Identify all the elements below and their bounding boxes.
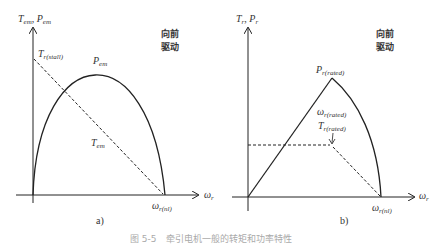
panel-b-no-load-speed-label: ωr(nl) [372, 203, 392, 215]
panel-b-sub-caption: b) [340, 215, 348, 226]
panel-b-pointer-arrow [332, 133, 333, 143]
panel-b-power-rise [248, 78, 332, 197]
panel-b-y-axis-label: Tr, Pr [236, 14, 258, 26]
panel-a-sub-caption: a) [96, 215, 104, 226]
panel-a-y-axis-label: Tem, Pem [18, 14, 51, 26]
panel-b-x-axis-label: ωr [419, 191, 429, 203]
panel-b-rated-power-label: Pr(rated) [316, 65, 344, 77]
panel-a-stall-torque-label: Tr(stall) [38, 49, 63, 61]
panel-a-no-load-speed-label: ωr(nl) [152, 201, 172, 213]
panel-b-region-label: 向前驱动 [376, 28, 394, 54]
figure-caption: 图 5-5 牵引电机一般的转矩和功率特性 [130, 232, 292, 245]
panel-b-rated-speed-label: ωr(rated) [317, 107, 346, 119]
panel-b-power-falloff [332, 78, 381, 197]
panel-a-torque-label: Tem [91, 138, 105, 150]
panel-a-x-axis-label: ωr [204, 190, 214, 202]
panel-a-power-curve [33, 75, 165, 195]
panel-a-torque-line [34, 59, 163, 194]
panel-b-torque-falloff [333, 147, 380, 196]
panel-a-power-curve-label: Pem [93, 56, 107, 68]
panel-a-region-label: 向前驱动 [161, 28, 179, 54]
panel-b-rated-torque-label: Tr(rated) [318, 121, 346, 133]
